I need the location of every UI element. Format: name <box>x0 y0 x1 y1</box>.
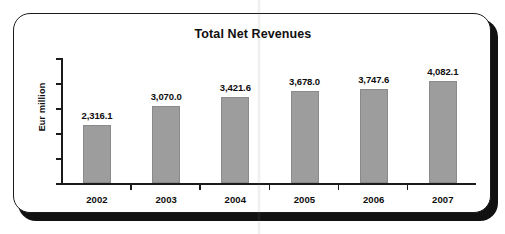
chart-frame: Total Net Revenues Eur million 2,316.13,… <box>13 13 491 213</box>
x-axis-tick <box>407 185 409 190</box>
bar-value-label: 3,421.6 <box>202 82 268 93</box>
bar-value-label: 3,070.0 <box>133 91 199 102</box>
x-axis-tick <box>199 185 201 190</box>
bar <box>152 106 180 183</box>
x-axis-label: 2003 <box>133 194 199 205</box>
chart-title: Total Net Revenues <box>14 27 491 41</box>
x-axis-tick <box>338 185 340 190</box>
x-axis-tick <box>269 185 271 190</box>
bar-value-label: 3,747.6 <box>341 74 407 85</box>
bar-value-label: 3,678.0 <box>272 76 338 87</box>
y-axis-tick <box>56 108 62 110</box>
bar <box>83 125 111 183</box>
bar <box>360 89 388 183</box>
y-axis-tick <box>56 58 62 60</box>
y-axis-tick <box>56 158 62 160</box>
y-axis-tick <box>56 183 62 185</box>
bar <box>291 91 319 183</box>
x-axis-label: 2007 <box>410 194 476 205</box>
x-axis-label: 2002 <box>64 194 130 205</box>
x-axis-tick <box>130 185 132 190</box>
y-axis-title: Eur million <box>37 67 47 147</box>
y-axis-line <box>61 58 63 183</box>
x-axis-label: 2005 <box>272 194 338 205</box>
bar-value-label: 2,316.1 <box>64 110 130 121</box>
bar <box>221 97 249 183</box>
y-axis-tick <box>56 133 62 135</box>
plot-area: 2,316.13,070.03,421.63,678.03,747.64,082… <box>61 58 476 183</box>
bar-value-label: 4,082.1 <box>410 66 476 77</box>
x-axis-label: 2006 <box>341 194 407 205</box>
x-axis-label: 2004 <box>202 194 268 205</box>
bar <box>429 81 457 183</box>
y-axis-tick <box>56 83 62 85</box>
